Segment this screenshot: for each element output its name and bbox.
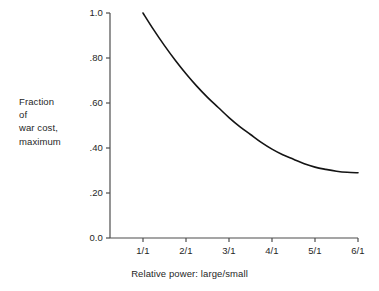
plot-area [0, 0, 379, 291]
chart-figure: Fraction of war cost, maximum 0.0 .20 .4… [0, 0, 379, 291]
axis-lines [110, 13, 358, 238]
tick-marks [106, 13, 358, 242]
data-series-line [143, 13, 358, 173]
